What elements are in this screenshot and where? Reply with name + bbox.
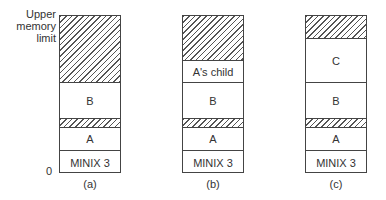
- segment-minix: MINIX 3: [306, 151, 366, 174]
- memory-column-c: C B A MINIX 3: [305, 15, 367, 173]
- segment-a: A: [60, 128, 120, 151]
- segment-c: C: [306, 39, 366, 83]
- segment-b: B: [60, 83, 120, 119]
- free-hole-middle: [183, 119, 243, 128]
- caption-b: (b): [182, 178, 244, 190]
- segment-a: A: [306, 128, 366, 151]
- memory-column-b: A's child B A MINIX 3: [182, 15, 244, 173]
- free-hole-top: [183, 16, 243, 61]
- upper-label-line-2: memory: [16, 20, 56, 32]
- segment-b: B: [183, 83, 243, 119]
- segment-minix: MINIX 3: [60, 151, 120, 174]
- segment-minix: MINIX 3: [183, 151, 243, 174]
- free-hole-middle: [306, 119, 366, 128]
- free-hole-middle: [60, 119, 120, 128]
- segment-a: A: [183, 128, 243, 151]
- caption-c: (c): [305, 178, 367, 190]
- segment-b: B: [306, 83, 366, 119]
- caption-a: (a): [59, 178, 121, 190]
- free-hole-top: [306, 16, 366, 39]
- upper-label-line-1: Upper: [26, 8, 56, 20]
- free-hole-top: [60, 16, 120, 83]
- segment-a-child: A's child: [183, 61, 243, 83]
- upper-label-line-3: limit: [36, 32, 56, 44]
- zero-address-label: 0: [46, 165, 52, 177]
- memory-column-a: B A MINIX 3: [59, 15, 121, 173]
